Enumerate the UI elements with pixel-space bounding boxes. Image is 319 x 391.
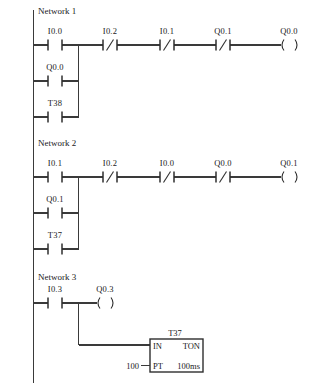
contact-label: Q0.0 (46, 62, 64, 72)
contact-slash-icon (220, 172, 227, 183)
timer-in-label: IN (153, 341, 162, 351)
network-1: Network 1 I0.0 (34, 6, 298, 123)
contact-slash-icon (107, 172, 114, 183)
network-3: Network 3 I0.3 Q0.3 T37 (34, 272, 204, 372)
coil-label: Q0.0 (280, 26, 298, 36)
timer-pt-label: PT (153, 361, 164, 371)
network-3-title: Network 3 (38, 272, 77, 282)
contact-i0-3[interactable]: I0.3 (48, 284, 62, 309)
ladder-diagram-sheet: Network 1 I0.0 (0, 0, 319, 391)
contact-q0-1[interactable]: Q0.1 (214, 26, 232, 51)
contact-label: I0.1 (160, 26, 174, 36)
contact-i0-1[interactable]: I0.1 (160, 26, 174, 51)
timer-preset-value: 100 (126, 361, 139, 371)
timer-name-label: T37 (168, 328, 182, 338)
contact-i0-0-n2[interactable]: I0.0 (160, 158, 174, 183)
network-2-title: Network 2 (38, 138, 76, 148)
timer-type-label: TON (183, 341, 200, 351)
contact-slash-icon (107, 40, 114, 51)
contact-label: Q0.1 (214, 26, 232, 36)
contact-slash-icon (164, 172, 171, 183)
network-2: Network 2 I0.1 I0.2 (34, 138, 298, 255)
contact-label: I0.0 (48, 26, 62, 36)
coil-q0-1[interactable]: Q0.1 (280, 158, 298, 183)
contact-slash-icon (220, 40, 227, 51)
contact-label: I0.3 (48, 284, 62, 294)
contact-label: I0.0 (160, 158, 174, 168)
coil-label: Q0.3 (96, 284, 114, 294)
coil-label: Q0.1 (280, 158, 298, 168)
contact-i0-0[interactable]: I0.0 (48, 26, 62, 51)
coil-arc-left (282, 172, 284, 183)
coil-q0-3[interactable]: Q0.3 (96, 284, 114, 309)
coil-arc-left (282, 40, 284, 51)
contact-q0-1-branch[interactable]: Q0.1 (46, 194, 64, 219)
coil-arc-right (295, 172, 297, 183)
timer-block-t37[interactable]: T37 IN TON PT 100ms 100 (126, 328, 203, 372)
contact-i0-1-n2[interactable]: I0.1 (48, 158, 62, 183)
contact-t38-branch[interactable]: T38 (48, 98, 62, 123)
contact-label: I0.2 (103, 26, 117, 36)
contact-i0-2-n2[interactable]: I0.2 (103, 158, 117, 183)
network-1-title: Network 1 (38, 6, 76, 16)
contact-label: Q0.0 (214, 158, 232, 168)
contact-t37-branch[interactable]: T37 (48, 230, 62, 255)
coil-arc-right (295, 40, 297, 51)
timer-timebase-label: 100ms (177, 361, 200, 371)
coil-arc-right (111, 298, 113, 309)
contact-label: I0.2 (103, 158, 117, 168)
contact-i0-2[interactable]: I0.2 (103, 26, 117, 51)
contact-label: T38 (48, 98, 62, 108)
contact-label: T37 (48, 230, 62, 240)
contact-q0-0-branch[interactable]: Q0.0 (46, 62, 64, 87)
contact-label: I0.1 (48, 158, 62, 168)
contact-label: Q0.1 (46, 194, 64, 204)
ladder-logic-canvas: Network 1 I0.0 (0, 0, 319, 391)
contact-slash-icon (164, 40, 171, 51)
coil-q0-0[interactable]: Q0.0 (280, 26, 298, 51)
coil-arc-left (98, 298, 100, 309)
contact-q0-0-n2[interactable]: Q0.0 (214, 158, 232, 183)
